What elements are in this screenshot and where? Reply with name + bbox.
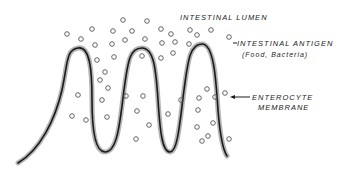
antigen-circle — [79, 37, 84, 42]
antigen-circle — [195, 125, 200, 130]
label-intestinal-antigen: INTESTINAL ANTIGEN — [237, 39, 333, 48]
antigen-circle — [90, 27, 95, 32]
antigen-circle — [195, 33, 200, 38]
antigen-circle — [169, 32, 174, 37]
antigen-circle — [223, 91, 228, 96]
antigen-circle — [171, 51, 176, 56]
antigen-circle — [166, 112, 171, 117]
antigen-circle — [135, 109, 140, 114]
antigen-circle — [159, 27, 164, 32]
antigen-circle — [100, 98, 105, 103]
antigen-circle — [103, 70, 108, 75]
antigen-circle — [134, 137, 139, 142]
antigen-circle — [105, 115, 110, 120]
antigen-circle — [197, 96, 202, 101]
antigen-circle — [141, 94, 146, 99]
antigen-circle — [65, 32, 70, 37]
antigen-circle — [227, 35, 232, 40]
antigen-circle — [140, 54, 145, 59]
antigen-circle — [209, 28, 214, 33]
enterocyte-membrane-line — [18, 44, 227, 163]
antigen-circle — [205, 87, 210, 92]
antigen-circle — [188, 28, 193, 33]
antigen-circle — [227, 137, 232, 142]
antigen-circle — [70, 114, 75, 119]
antigen-circle — [143, 37, 148, 42]
antigen-circle — [187, 42, 192, 47]
antigen-circle — [211, 121, 216, 126]
antigen-circle — [206, 134, 211, 139]
antigen-circle — [145, 19, 150, 24]
label-membrane: MEMBRANE — [258, 103, 309, 112]
antigen-circle — [111, 29, 116, 34]
antigen-circle — [112, 55, 117, 60]
antigen-circle — [121, 18, 126, 23]
label-antigen-examples: (Food, Bacteria) — [242, 51, 308, 59]
antigen-circle — [200, 139, 205, 144]
antigen-circle — [93, 43, 98, 48]
antigen-circle — [84, 118, 89, 123]
antigen-circle — [160, 41, 165, 46]
antigen-circle — [110, 42, 115, 47]
antigen-circle — [106, 86, 111, 91]
antigen-circle — [130, 29, 135, 34]
intestinal-villi-diagram: INTESTINAL LUMEN INTESTINAL ANTIGEN (Foo… — [0, 0, 338, 170]
label-intestinal-lumen: INTESTINAL LUMEN — [180, 13, 268, 22]
antigen-circle — [173, 40, 178, 45]
antigen-circle — [95, 58, 100, 63]
antigen-circle — [159, 56, 164, 61]
membrane-arrowhead-icon — [230, 95, 235, 99]
antigen-circle — [196, 108, 201, 113]
antigen-circle — [147, 123, 152, 128]
label-enterocyte: ENTEROCYTE — [252, 93, 313, 102]
antigen-circle — [76, 93, 81, 98]
antigen-circle — [123, 38, 128, 43]
antigen-circle — [98, 78, 103, 83]
